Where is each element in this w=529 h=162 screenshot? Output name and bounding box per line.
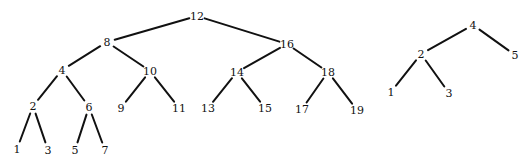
tree-node-10: 10 bbox=[143, 65, 157, 78]
tree-node-8: 8 bbox=[104, 36, 111, 49]
tree-edges bbox=[20, 18, 509, 142]
tree-edge-4-6 bbox=[67, 77, 85, 101]
tree-edge-4-2 bbox=[38, 76, 57, 100]
tree-edge-18-19 bbox=[333, 78, 352, 103]
tree-node-16: 16 bbox=[280, 38, 294, 51]
tree-node-15: 15 bbox=[258, 102, 272, 115]
tree-edge-12-16 bbox=[205, 18, 280, 41]
tree-node-13: 13 bbox=[201, 102, 215, 115]
tree-edge-6-5 bbox=[78, 115, 87, 143]
tree-edge-12-8 bbox=[115, 18, 190, 40]
tree-edge-2-3 bbox=[36, 114, 46, 143]
tree-node-18: 18 bbox=[321, 66, 335, 79]
tree-edge-2-1 bbox=[20, 114, 30, 142]
tree-node-1: 1 bbox=[388, 86, 395, 99]
tree-edge-14-13 bbox=[213, 78, 232, 102]
tree-node-17: 17 bbox=[295, 103, 309, 116]
tree-edge-6-7 bbox=[92, 115, 102, 143]
tree-edge-18-17 bbox=[307, 79, 324, 103]
tree-node-12: 12 bbox=[190, 10, 204, 23]
tree-node-11: 11 bbox=[172, 102, 186, 115]
tree-node-9: 9 bbox=[118, 102, 125, 115]
tree-edge-10-9 bbox=[126, 77, 145, 101]
tree-edge-16-18 bbox=[294, 49, 322, 68]
tree-edge-10-11 bbox=[155, 77, 174, 101]
tree-edge-2-3 bbox=[426, 61, 445, 87]
tree-node-3: 3 bbox=[446, 87, 453, 100]
tree-edge-16-14 bbox=[244, 48, 280, 68]
tree-edge-2-1 bbox=[396, 60, 416, 85]
tree-node-14: 14 bbox=[230, 66, 244, 79]
tree-node-6: 6 bbox=[86, 101, 93, 114]
tree-edge-4-5 bbox=[480, 30, 509, 51]
tree-node-2: 2 bbox=[30, 100, 37, 113]
tree-edge-4-2 bbox=[428, 29, 466, 50]
tree-node-19: 19 bbox=[350, 104, 364, 117]
tree-edge-14-15 bbox=[242, 78, 260, 101]
tree-node-2: 2 bbox=[418, 48, 425, 61]
tree-node-7: 7 bbox=[102, 144, 109, 157]
tree-edge-8-4 bbox=[69, 46, 100, 66]
tree-node-5: 5 bbox=[512, 49, 519, 62]
tree-node-5: 5 bbox=[72, 144, 79, 157]
tree-node-1: 1 bbox=[14, 143, 21, 156]
tree-node-3: 3 bbox=[45, 144, 52, 157]
tree-node-4: 4 bbox=[59, 64, 66, 77]
tree-edge-8-10 bbox=[114, 47, 144, 67]
tree-node-4: 4 bbox=[470, 19, 477, 32]
binary-search-tree-diagram: 1281641014182691113151719135742513 bbox=[0, 0, 529, 162]
